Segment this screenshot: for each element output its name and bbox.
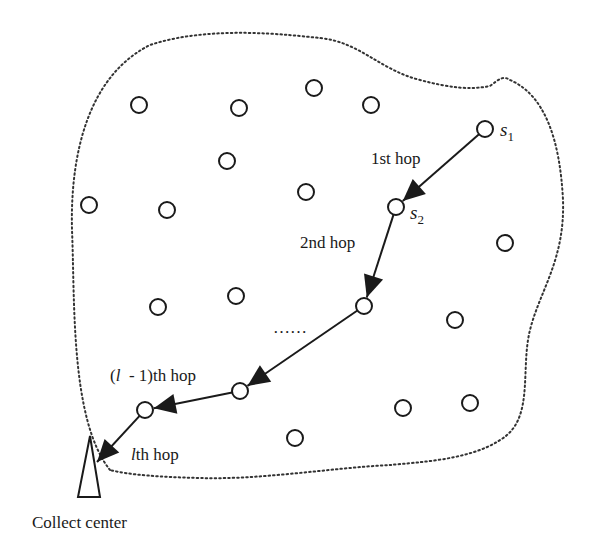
hop-label-1st: 1st hop	[371, 149, 421, 168]
sensor-node-s2	[388, 199, 404, 215]
s2-label: s2	[410, 202, 424, 227]
sensor-node-n7	[81, 197, 97, 213]
sensor-node-n6	[298, 184, 314, 200]
hop-label-2nd: 2nd hop	[300, 233, 355, 252]
arrowhead-icon	[364, 273, 383, 297]
s1-label: s1	[500, 119, 514, 144]
sensor-node-h3	[356, 298, 372, 314]
sensor-node-n15	[287, 430, 303, 446]
sensor-node-n2	[231, 100, 247, 116]
sensor-node-h4	[232, 383, 248, 399]
hop-arrows	[154, 134, 479, 413]
network-diagram: s1 s2 1st hop 2nd hop …… (l - 1)th hop l…	[0, 0, 598, 553]
sensor-node-n1	[131, 97, 147, 113]
sensor-node-n14	[462, 395, 478, 411]
sensor-node-n4	[363, 97, 379, 113]
sensor-node-n13	[395, 400, 411, 416]
sensor-node-n5	[219, 153, 235, 169]
hop-label-lth: lth hop	[131, 445, 179, 464]
arrowhead-icon	[154, 394, 178, 414]
sensor-node-n9	[497, 235, 513, 251]
sensor-node-h5	[137, 402, 153, 418]
sensor-node-n10	[150, 299, 166, 315]
sensor-node-n8	[159, 202, 175, 218]
arrowhead-icon	[403, 179, 426, 201]
sensor-node-s1	[477, 121, 493, 137]
sensor-node-n12	[447, 312, 463, 328]
arrowhead-icon	[247, 365, 271, 386]
sensor-node-n11	[228, 288, 244, 304]
ellipsis: ……	[273, 318, 307, 337]
hop-label-l-minus-1: (l - 1)th hop	[110, 366, 196, 385]
sensor-node-n3	[306, 80, 322, 96]
sensor-nodes	[81, 80, 513, 446]
collect-center-label: Collect center	[32, 513, 127, 532]
